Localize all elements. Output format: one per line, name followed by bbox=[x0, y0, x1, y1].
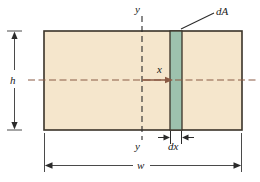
label-y-top: y bbox=[135, 4, 140, 15]
label-x-distance: x bbox=[157, 64, 162, 75]
figure-canvas bbox=[0, 0, 260, 182]
mechanics-figure-rectangular-section: y y h w x dx dA bbox=[0, 0, 260, 182]
label-height: h bbox=[10, 75, 16, 86]
label-differential-area: dA bbox=[216, 6, 228, 17]
label-width: w bbox=[137, 160, 144, 171]
label-strip-width: dx bbox=[168, 141, 178, 152]
da-leader-line bbox=[181, 13, 214, 29]
label-y-bottom: y bbox=[135, 141, 140, 152]
